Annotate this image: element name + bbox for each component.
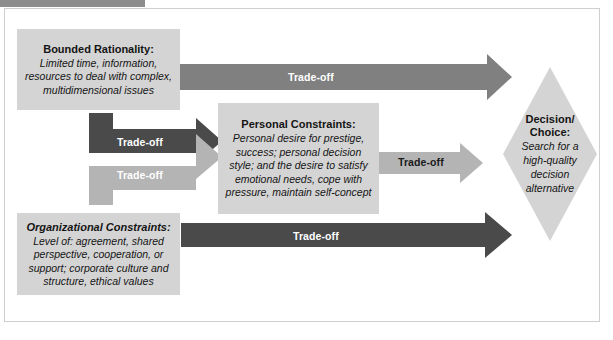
- arrow-label-personal-to-decision: Trade-off: [398, 156, 444, 168]
- diamond-body-line4: alternative: [526, 182, 574, 195]
- diamond-heading-line1: Decision/: [526, 113, 575, 126]
- arrow-label-organizational-to-personal: Trade-off: [117, 169, 163, 181]
- diamond-text: Decision/ Choice: Search for a high-qual…: [503, 67, 597, 241]
- diagram-canvas: Trade-off Trade-off Trade-off Trade-off …: [0, 0, 613, 340]
- arrow-label-bounded-to-personal: Trade-off: [117, 136, 163, 148]
- diamond-decision-choice: Decision/ Choice: Search for a high-qual…: [503, 67, 597, 241]
- box-bounded-rationality-body: Limited time, information, resources to …: [23, 57, 174, 98]
- box-bounded-rationality: Bounded Rationality: Limited time, infor…: [17, 29, 180, 110]
- arrow-label-bounded-to-decision: Trade-off: [288, 71, 334, 83]
- box-bounded-rationality-heading: Bounded Rationality:: [43, 42, 154, 56]
- arrow-label-organizational-to-decision: Trade-off: [293, 230, 339, 242]
- diamond-body-line1: Search for a: [521, 140, 578, 153]
- box-organizational-constraints-body: Level of: agreement, shared perspective,…: [23, 235, 174, 289]
- diamond-body-line3: decision: [531, 168, 570, 181]
- box-organizational-constraints: Organizational Constraints: Level of: ag…: [17, 213, 180, 295]
- top-tab-bar: [0, 0, 145, 7]
- box-personal-constraints-heading: Personal Constraints:: [241, 117, 355, 131]
- box-organizational-constraints-heading: Organizational Constraints:: [26, 220, 170, 234]
- diamond-body-line2: high-quality: [523, 154, 577, 167]
- box-personal-constraints-body: Personal desire for prestige, success; p…: [224, 132, 373, 200]
- box-personal-constraints: Personal Constraints: Personal desire fo…: [218, 103, 379, 214]
- diamond-heading-line2: Choice:: [530, 126, 570, 139]
